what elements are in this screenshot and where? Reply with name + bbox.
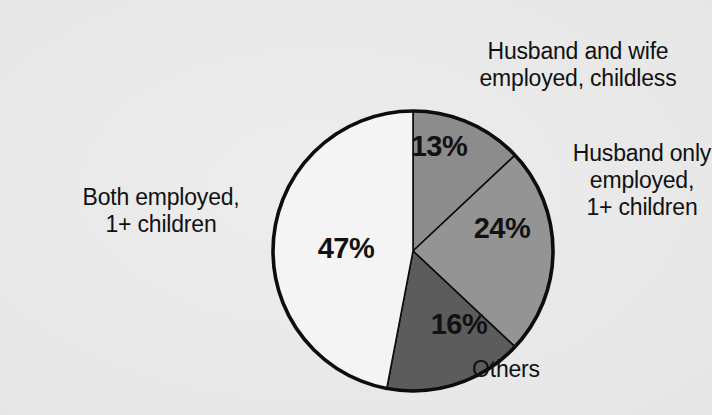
slice-value-both-employed: 47% (318, 232, 375, 264)
callout-label-husband-only: Husband only employed, 1+ children (537, 140, 712, 221)
slice-value-others: 16% (431, 308, 488, 340)
callout-label-others: Others (472, 356, 632, 383)
slice-value-husband-wife-childless: 13% (411, 130, 468, 162)
pie-chart-figure: 13% 24% 16% 47% Husband and wife employe… (40, 16, 672, 399)
callout-label-both-employed: Both employed, 1+ children (48, 184, 274, 238)
slice-value-husband-only: 24% (474, 212, 531, 244)
callout-label-husband-wife-childless: Husband and wife employed, childless (418, 38, 712, 92)
